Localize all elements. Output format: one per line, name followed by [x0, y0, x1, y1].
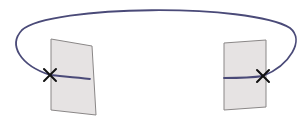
right-sheet	[224, 40, 266, 110]
diagram-canvas	[0, 0, 308, 124]
